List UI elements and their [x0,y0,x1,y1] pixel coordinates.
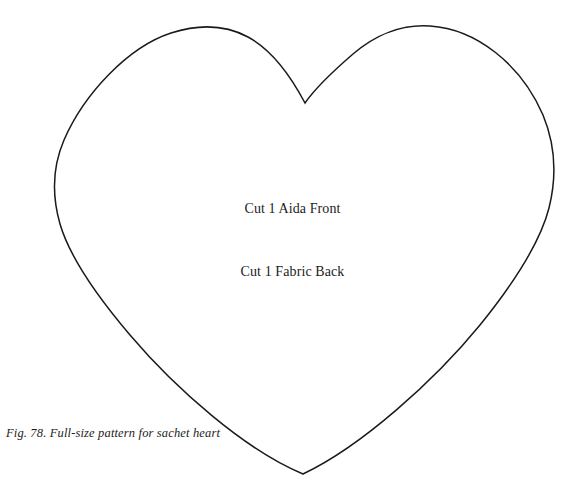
label-cut-aida-front: Cut 1 Aida Front [0,202,585,216]
heart-outline-path [54,26,553,474]
figure-caption: Fig. 78. Full-size pattern for sachet he… [6,427,220,440]
label-cut-fabric-back: Cut 1 Fabric Back [0,265,585,279]
figure-page: Cut 1 Aida Front Cut 1 Fabric Back Fig. … [0,0,585,502]
